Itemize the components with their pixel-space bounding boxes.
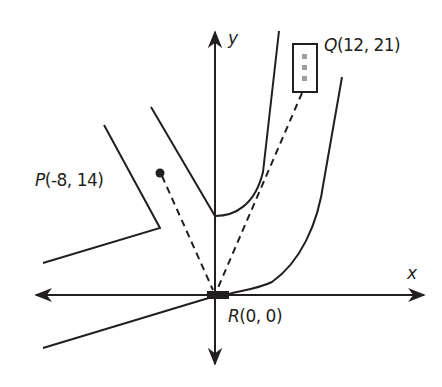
point-q-label: Q(12, 21) <box>324 35 400 55</box>
point-p-coords: (-8, 14) <box>45 170 104 190</box>
x-axis-label: x <box>407 263 417 283</box>
dashed-line-p-to-r <box>162 176 213 290</box>
right-curve <box>226 77 342 295</box>
coordinate-diagram <box>0 0 442 387</box>
point-r-label: R(0, 0) <box>228 306 282 326</box>
point-p-name: P <box>35 170 45 190</box>
point-p-label: P(-8, 14) <box>35 170 103 190</box>
dashed-line-q-to-r <box>217 93 302 290</box>
q-dot-1 <box>302 54 307 59</box>
point-r-name: R <box>228 306 239 326</box>
point-p-dot <box>156 169 165 178</box>
point-q-name: Q <box>324 35 337 55</box>
point-q-coords: (12, 21) <box>337 35 400 55</box>
left-wall-line <box>43 125 160 263</box>
q-dot-2 <box>302 65 307 70</box>
lower-left-line <box>43 297 212 348</box>
point-r-marker <box>207 291 229 299</box>
y-axis-label: y <box>228 28 238 48</box>
q-dot-3 <box>302 76 307 81</box>
point-r-coords: (0, 0) <box>239 306 282 326</box>
